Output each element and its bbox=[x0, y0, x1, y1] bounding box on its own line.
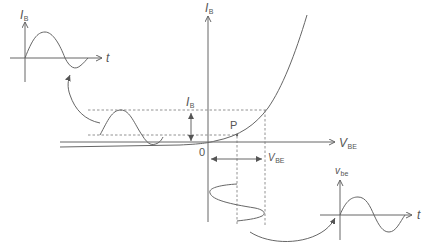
inset-input-y-label: IB bbox=[20, 9, 29, 22]
projection-lines bbox=[88, 110, 267, 225]
curved-arrow-to-output-inset bbox=[250, 218, 335, 242]
inset-input-graph bbox=[10, 22, 102, 82]
inset-output-x-label: t bbox=[417, 209, 420, 221]
main-y-axis-label: IB bbox=[205, 2, 214, 15]
inset-input-x-label: t bbox=[106, 52, 109, 64]
input-characteristic-curve bbox=[60, 15, 307, 147]
main-axes bbox=[60, 16, 335, 222]
origin-label: 0 bbox=[199, 147, 205, 158]
curved-arrow-to-input-inset bbox=[68, 75, 100, 123]
inset-output-y-label: vbe bbox=[335, 166, 348, 177]
vbe-swing-label: VBE bbox=[268, 153, 285, 164]
ib-input-waveform bbox=[100, 110, 163, 144]
operating-point-label: P bbox=[230, 120, 237, 131]
main-x-axis-label: VBE bbox=[339, 137, 357, 150]
vbe-waveform-vertical bbox=[210, 184, 264, 221]
transistor-characteristic-diagram bbox=[0, 0, 429, 247]
operating-point-marker bbox=[236, 134, 238, 136]
ib-swing-label: IB bbox=[186, 96, 195, 109]
inset-output-graph bbox=[320, 180, 412, 240]
